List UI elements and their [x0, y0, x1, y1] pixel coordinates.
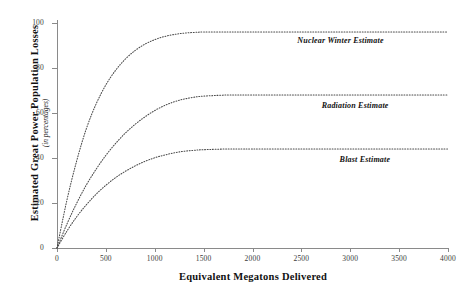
series-label-blast-estimate: Blast Estimate	[340, 155, 391, 164]
series-line-radiation-estimate	[57, 95, 448, 248]
x-axis-title: Equivalent Megatons Delivered	[57, 271, 449, 282]
series-label-radiation-estimate: Radiation Estimate	[322, 101, 389, 110]
series-label-nuclear-winter-estimate: Nuclear Winter Estimate	[297, 36, 383, 45]
chart-curves	[0, 0, 465, 300]
series-line-nuclear-winter-estimate	[57, 32, 448, 248]
chart-container: Estimated Great Power Population Losses …	[0, 0, 465, 300]
